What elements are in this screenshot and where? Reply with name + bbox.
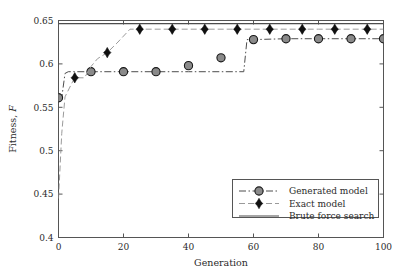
data-point-marker [379, 35, 387, 43]
figure-container: 020406080100 0.40.450.50.550.60.65 Gener… [0, 0, 407, 278]
data-point-marker [119, 68, 127, 76]
legend-label-2: Brute force search [289, 211, 374, 221]
y-tick-label: 0.65 [33, 16, 53, 26]
data-point-marker [217, 54, 225, 62]
x-tick-label: 0 [56, 242, 62, 252]
x-tick-label: 20 [118, 242, 130, 252]
data-point-marker [54, 94, 62, 102]
data-point-marker [314, 35, 322, 43]
y-tick-label: 0.45 [33, 189, 53, 199]
data-point-marker [152, 68, 160, 76]
y-tick-label: 0.55 [33, 103, 53, 113]
y-axis-title: Fitness, F [7, 105, 18, 153]
x-tick-label: 100 [375, 242, 392, 252]
data-point-marker [184, 62, 192, 70]
y-tick-label: 0.5 [39, 146, 54, 156]
data-point-marker [347, 35, 355, 43]
data-point-marker [255, 187, 263, 195]
data-point-marker [282, 35, 290, 43]
y-tick-label: 0.6 [39, 59, 54, 69]
legend-label-1: Exact model [289, 199, 346, 209]
x-axis-title: Generation [194, 257, 248, 268]
chart-legend: Generated modelExact modelBrute force se… [233, 180, 379, 222]
x-tick-label: 80 [313, 242, 325, 252]
fitness-vs-generation-chart: 020406080100 0.40.450.50.550.60.65 Gener… [0, 0, 407, 278]
y-tick-label: 0.4 [39, 233, 54, 243]
data-point-marker [249, 35, 257, 43]
legend-label-0: Generated model [289, 186, 368, 196]
x-tick-label: 60 [248, 242, 260, 252]
x-tick-label: 40 [183, 242, 195, 252]
